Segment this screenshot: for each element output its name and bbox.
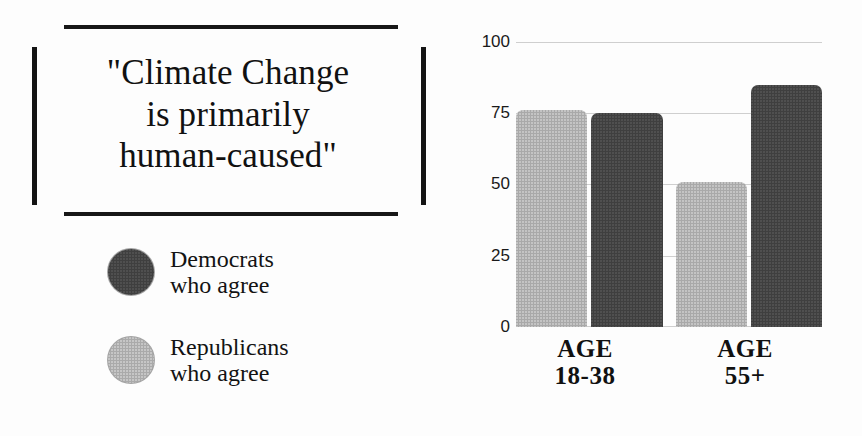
infographic-page: "Climate Change is primarily human-cause… (0, 0, 862, 436)
x-axis-label-age-18-38-line-1: AGE (557, 335, 613, 362)
y-axis-tick-0: 0 (450, 317, 510, 337)
quote-top-rule (64, 25, 398, 29)
legend-item-republicans: Republicans who agree (108, 334, 289, 387)
y-axis-tick-75: 75 (450, 103, 510, 123)
quote-line-1: "Climate Change (48, 52, 408, 94)
y-axis-tick-25: 25 (450, 246, 510, 266)
legend-democrats-line-1: Democrats (170, 246, 274, 272)
y-axis-tick-50: 50 (450, 174, 510, 194)
filled-circle-icon (108, 337, 154, 383)
x-axis-label-age-18-38: AGE 18-38 (510, 335, 660, 389)
legend-item-democrats-label: Democrats who agree (170, 246, 274, 299)
y-axis-tick-100: 100 (450, 32, 510, 52)
filled-circle-icon (108, 249, 154, 295)
gridline-100 (516, 42, 822, 43)
x-axis-label-age-55-plus: AGE 55+ (670, 335, 820, 389)
plot-area (516, 42, 822, 327)
legend-item-democrats: Democrats who agree (108, 246, 274, 299)
quote-line-3: human-caused" (48, 135, 408, 177)
bar-chart: 100 75 50 25 0 AGE 18-38 AGE 55+ (455, 0, 862, 436)
x-axis-label-age-55-plus-line-1: AGE (717, 335, 773, 362)
x-axis-label-age-18-38-line-2: 18-38 (510, 362, 660, 389)
legend-republicans-line-2: who agree (170, 360, 289, 386)
bar-age55-republicans (676, 182, 747, 327)
quote-right-bar (421, 47, 426, 205)
x-axis-label-age-55-plus-line-2: 55+ (670, 362, 820, 389)
quote-line-2: is primarily (48, 94, 408, 136)
legend-republicans-line-1: Republicans (170, 334, 289, 360)
legend-democrats-line-2: who agree (170, 272, 274, 298)
bar-age55-democrats (751, 85, 822, 327)
quote-text: "Climate Change is primarily human-cause… (48, 52, 408, 177)
quote-bottom-rule (64, 212, 398, 216)
bar-age1838-democrats (591, 113, 663, 327)
legend-item-republicans-label: Republicans who agree (170, 334, 289, 387)
bar-age1838-republicans (516, 110, 587, 327)
quote-left-bar (32, 47, 37, 205)
quote-block: "Climate Change is primarily human-cause… (0, 0, 450, 230)
